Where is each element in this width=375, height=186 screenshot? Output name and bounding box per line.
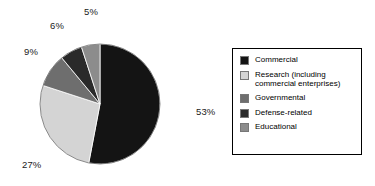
legend-swatch-commercial — [240, 56, 249, 65]
pie-chart-figure: 53% 27% 9% 6% 5% Commercial Research (in… — [0, 0, 375, 186]
legend-swatch-research — [240, 71, 249, 80]
slice-value-label-defense-related: 6% — [50, 20, 64, 31]
chart-legend: Commercial Research (including commercia… — [232, 48, 362, 155]
legend-swatch-governmental — [240, 94, 249, 103]
legend-item-commercial: Commercial — [240, 55, 356, 65]
legend-item-research: Research (including commercial enterpris… — [240, 70, 356, 89]
legend-swatch-defense-related — [240, 109, 249, 118]
slice-value-label-governmental: 9% — [24, 46, 38, 57]
pie-slice-group — [40, 44, 160, 164]
legend-swatch-educational — [240, 123, 249, 132]
legend-item-defense-related: Defense-related — [240, 108, 356, 118]
legend-label-educational: Educational — [255, 122, 297, 132]
legend-item-governmental: Governmental — [240, 93, 356, 103]
legend-item-educational: Educational — [240, 122, 356, 132]
pie-plot-area: 53% 27% 9% 6% 5% — [0, 0, 230, 186]
legend-label-commercial: Commercial — [255, 55, 298, 65]
slice-value-label-research: 27% — [22, 159, 41, 170]
legend-label-defense-related: Defense-related — [255, 108, 312, 118]
legend-label-research: Research (including commercial enterpris… — [255, 70, 340, 89]
slice-value-label-educational: 5% — [84, 6, 98, 17]
slice-value-label-commercial: 53% — [196, 106, 215, 117]
legend-label-governmental: Governmental — [255, 93, 305, 103]
